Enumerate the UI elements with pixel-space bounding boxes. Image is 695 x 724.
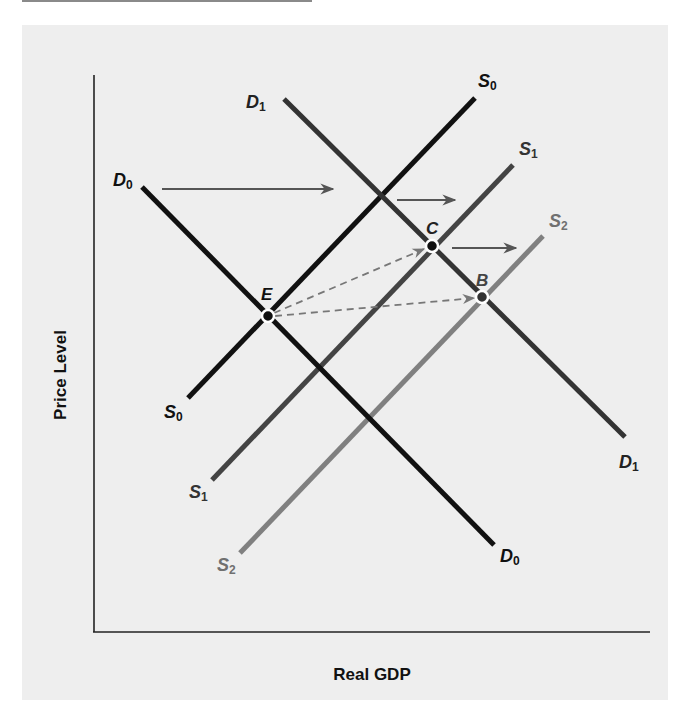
label-s0-bottom: S0 <box>164 402 183 424</box>
label-s2-bottom: S2 <box>217 555 236 577</box>
label-s1-bottom: S1 <box>189 482 208 504</box>
label-d0-top: D0 <box>113 170 133 192</box>
label-d1-top: D1 <box>246 92 266 114</box>
label-s1-top: S1 <box>519 139 538 161</box>
point-c <box>426 240 438 252</box>
point-label-e: E <box>261 285 273 304</box>
point-b <box>476 291 488 303</box>
supply-curve-s2 <box>240 236 543 553</box>
label-s0-top: S0 <box>478 71 497 93</box>
label-s2-top: S2 <box>549 211 568 233</box>
x-axis-title: Real GDP <box>333 665 410 684</box>
y-axis-title: Price Level <box>51 330 70 420</box>
label-d1-bottom: D1 <box>619 452 639 474</box>
ad-as-diagram: Real GDP Price Level E C B S0 S0 S1 S1 S… <box>0 0 695 724</box>
point-label-c: C <box>426 219 439 238</box>
point-label-b: B <box>476 271 488 290</box>
label-d0-bottom: D0 <box>500 546 520 568</box>
point-e <box>262 310 274 322</box>
